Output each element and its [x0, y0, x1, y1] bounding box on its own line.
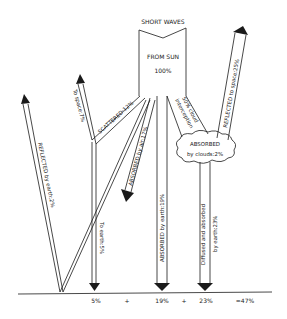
cloud-shape: ABSORBED by clouds:2%: [176, 130, 235, 163]
to-space-arrowhead: [76, 74, 85, 84]
absorbed-by-earth-arrowhead: [154, 283, 170, 291]
equation-plus2: +: [181, 297, 186, 304]
equation-plus1: +: [124, 297, 129, 304]
source-label: FROM SUN: [147, 53, 179, 60]
absorbed-by-air-arrow: ABSORBED by air:17%: [121, 98, 155, 202]
equation-term3: 23%: [199, 297, 213, 304]
diagram-title: SHORT WAVES: [141, 18, 185, 25]
reflected-by-earth-label: REFLECTED by earth:2%: [36, 142, 56, 208]
ground-line: [18, 292, 272, 294]
to-earth-arrowhead: [89, 283, 100, 291]
absorbed-by-earth-label: ABSORBED by earth:19%: [159, 194, 166, 262]
cloud-label-line1: ABSORBED: [190, 141, 220, 147]
equation-term1: 5%: [91, 297, 101, 304]
diffused-label-line1: Diffused and absorbed: [200, 204, 206, 265]
reflected-to-space-arrow: REFLECTED to space:25%: [217, 26, 248, 140]
cloud-label-line2: by clouds:2%: [187, 151, 223, 158]
equation-term2: 19%: [155, 297, 169, 304]
reflected-by-earth-arrowhead: [21, 94, 30, 104]
absorbed-by-air-arrowhead: [121, 189, 134, 202]
absorbed-by-earth-arrow: ABSORBED by earth:19%: [154, 96, 170, 291]
equation: 5% + 19% + 23% =47%: [91, 297, 254, 304]
equation-result: =47%: [236, 297, 255, 304]
solar-radiation-diagram: SHORT WAVES FROM SUN 100% SCATTERED:12% …: [0, 0, 287, 319]
to-earth-label: To earth:5%: [99, 221, 105, 254]
diffused-absorbed-arrow: Diffused and absorbed by earth:23%: [197, 162, 219, 291]
scattered-label: SCATTERED:12%: [97, 100, 135, 135]
to-space-arrow: To space:7%: [71, 74, 96, 144]
source-value: 100%: [154, 67, 171, 74]
to-space-label: To space:7%: [71, 88, 87, 123]
source-box: [139, 28, 186, 96]
diffused-label-line2: by earth:23%: [212, 216, 219, 253]
diffused-absorbed-arrowhead: [197, 283, 213, 291]
